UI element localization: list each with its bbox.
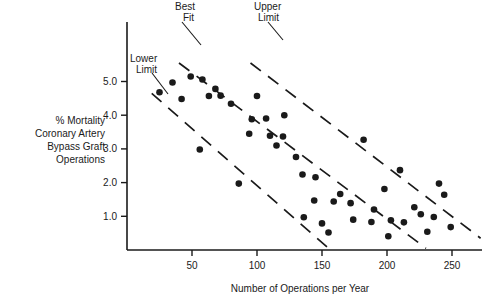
data-point: [311, 197, 318, 204]
data-point: [360, 137, 367, 144]
upper-limit-label-line2: Limit: [258, 12, 279, 23]
data-point: [319, 220, 326, 227]
data-point: [178, 96, 185, 103]
data-point: [212, 86, 219, 93]
x-tick-label: 150: [314, 260, 331, 271]
data-point: [424, 229, 431, 236]
lower-limit-label-line1: Lower: [130, 53, 158, 64]
annotation-labels-group: Best Fit Upper Limit Lower Limit: [130, 1, 282, 75]
y-tick-label: 4.0: [103, 110, 117, 121]
y-axis-title: % Mortality Coronary Artery Bypass Graft…: [35, 115, 105, 165]
data-point: [301, 214, 308, 221]
best-fit-label-line2: Fit: [183, 12, 194, 23]
data-point: [299, 171, 306, 178]
data-point: [397, 167, 404, 174]
lower-limit-label-line2: Limit: [136, 64, 157, 75]
y-axis-title-line1: % Mortality: [56, 115, 105, 126]
best-fit-label-line1: Best: [175, 1, 195, 12]
data-point: [330, 198, 337, 205]
data-point: [431, 214, 438, 221]
y-axis-title-line4: Operations: [56, 154, 105, 165]
best-fit-leader-line: [182, 22, 201, 45]
data-point: [371, 206, 378, 213]
data-point: [246, 130, 253, 137]
y-tick-label: 5.0: [103, 76, 117, 87]
data-point: [325, 229, 332, 236]
x-tick-label: 200: [379, 260, 396, 271]
data-point: [381, 186, 388, 193]
data-point: [418, 211, 425, 218]
x-axis-title: Number of Operations per Year: [231, 283, 370, 294]
data-point: [263, 115, 270, 122]
chart-canvas: 1.02.03.04.05.0 50100150200250 Best Fit …: [0, 0, 487, 303]
data-point: [197, 146, 204, 153]
data-point: [217, 92, 224, 99]
x-axis-ticks: 50100150200250: [186, 250, 460, 271]
data-point: [273, 142, 280, 149]
data-point: [267, 132, 274, 139]
y-tick-label: 2.0: [103, 177, 117, 188]
y-tick-label: 3.0: [103, 143, 117, 154]
data-point: [350, 216, 357, 223]
data-point: [293, 154, 300, 161]
data-point: [156, 89, 163, 96]
data-point: [411, 204, 418, 211]
data-point: [280, 133, 287, 140]
data-point: [385, 233, 392, 240]
data-point: [249, 116, 256, 123]
x-tick-label: 50: [186, 260, 198, 271]
x-tick-label: 100: [249, 260, 266, 271]
y-axis-title-line2: Coronary Artery: [35, 128, 105, 139]
upper-limit-label-line1: Upper: [254, 1, 282, 12]
data-point: [441, 191, 448, 198]
data-point: [206, 93, 213, 100]
reference-lines-group: [152, 63, 481, 249]
scatter-chart-figure: 1.02.03.04.05.0 50100150200250 Best Fit …: [0, 0, 487, 303]
data-point: [228, 100, 235, 107]
x-tick-label: 250: [444, 260, 461, 271]
data-point: [347, 200, 354, 207]
data-point: [447, 224, 454, 231]
data-point: [312, 174, 319, 181]
y-tick-label: 1.0: [103, 211, 117, 222]
data-point: [254, 93, 261, 100]
data-point: [388, 217, 395, 224]
upper-limit-line: [251, 63, 481, 238]
data-point: [436, 180, 443, 187]
data-points-group: [156, 73, 454, 239]
data-point: [187, 73, 194, 80]
data-point: [401, 219, 408, 226]
data-point: [368, 219, 375, 226]
data-point: [199, 76, 206, 83]
data-point: [169, 79, 176, 86]
upper-limit-leader-line: [268, 22, 283, 40]
data-point: [236, 180, 243, 187]
data-point: [281, 112, 288, 119]
data-point: [337, 191, 344, 198]
y-axis-title-line3: Bypass Graft: [47, 141, 105, 152]
y-axis-ticks: 1.02.03.04.05.0: [103, 76, 127, 222]
